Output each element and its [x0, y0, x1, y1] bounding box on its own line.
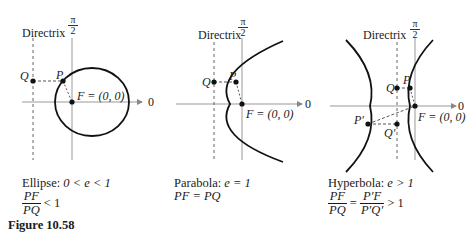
- hyperbola-caption: Hyperbola: e > 1 PF PQ = P′F P′Q′ > 1: [328, 177, 414, 217]
- parabola-P-label: P: [229, 70, 236, 82]
- ellipse-ratio: PF PQ < 1: [22, 190, 111, 217]
- parabola-focus-label: F = (0, 0): [246, 108, 293, 120]
- ellipse-zero-label: 0: [148, 96, 154, 108]
- hyperbola-diagram: [330, 38, 456, 172]
- ellipse-pi2-label: π 2: [68, 15, 78, 36]
- parabola-diagram: [176, 38, 302, 162]
- hyperbola-focus: [412, 103, 417, 108]
- hyperbola-focus-label: F = (0, 0): [418, 111, 465, 123]
- parabola-zero-label: 0: [305, 98, 311, 110]
- hyperbola-P-label: P: [403, 74, 410, 86]
- hyperbola-Q-prime-label: Q′: [384, 127, 395, 139]
- hyperbola-ratio: PF PQ = P′F P′Q′ > 1: [328, 190, 414, 217]
- parabola-caption: Parabola: e = 1 PF = PQ: [174, 177, 251, 203]
- ellipse-point-Q: [30, 78, 35, 83]
- hyperbola-directrix-label: Directrix: [363, 29, 406, 41]
- hyperbola-P-prime-label: P′: [354, 114, 364, 126]
- parabola-point-Q: [211, 79, 216, 84]
- parabola-Q-label: Q: [202, 76, 211, 88]
- hyperbola-pi2-label: π 2: [410, 19, 420, 40]
- ellipse-directrix-label: Directrix: [22, 27, 65, 39]
- parabola-equation: PF = PQ: [174, 190, 251, 203]
- parabola-directrix-label: Directrix: [198, 29, 241, 41]
- ellipse-P-label: P: [56, 69, 63, 81]
- ellipse-caption: Ellipse: 0 < e < 1 PF PQ < 1: [22, 177, 111, 217]
- parabola-pi2-label: π 2: [238, 17, 248, 38]
- ellipse-Q-label: Q: [20, 70, 29, 82]
- ellipse-focus-label: F = (0, 0): [77, 90, 124, 102]
- parabola-curve: [226, 41, 283, 162]
- hyperbola-point-Q: [394, 85, 399, 90]
- hyperbola-Q-label: Q: [386, 82, 395, 94]
- hyperbola-point-P-prime: [365, 121, 370, 126]
- ellipse-focus: [69, 99, 74, 104]
- parabola-focus: [239, 101, 244, 106]
- hyperbola-point-Q-prime: [394, 121, 399, 126]
- figure-title: Figure 10.58: [8, 218, 74, 233]
